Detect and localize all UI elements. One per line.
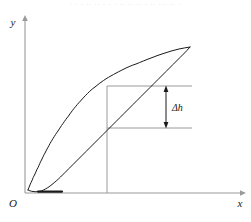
figure-root: · · · ·· ·· · · · ·· ·· ·· · ·· ··· ·· ·… bbox=[0, 0, 251, 222]
x-axis-arrowhead bbox=[240, 190, 246, 196]
delta-h-annotation: Δh bbox=[164, 86, 183, 129]
x-axis-label: x bbox=[237, 197, 243, 209]
hysteresis-figure: y x O Δh bbox=[0, 0, 251, 222]
y-axis-label: y bbox=[10, 16, 16, 28]
y-axis-arrowhead bbox=[22, 15, 28, 21]
delta-h-label: Δh bbox=[171, 102, 183, 113]
origin-label: O bbox=[9, 197, 17, 209]
axes-group: y x O bbox=[9, 15, 246, 209]
